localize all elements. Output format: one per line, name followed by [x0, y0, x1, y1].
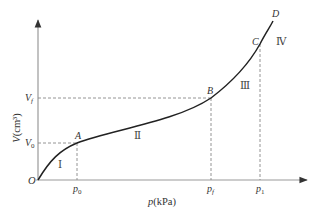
point-a-label: A: [74, 130, 82, 141]
x-axis-label: p(kPa): [147, 196, 176, 208]
region-4-label: Ⅳ: [276, 36, 287, 47]
pf-label: pf: [206, 183, 215, 196]
v0-label: V0: [25, 137, 35, 150]
pv-diagram: V(cm³) p(kPa) O V0 Vf p0 pf p1 A B C D Ⅰ…: [0, 0, 315, 212]
y-axis-label: V(cm³): [11, 113, 23, 143]
origin-label: O: [28, 175, 36, 186]
pv-curve: [38, 21, 273, 180]
guide-lines: [38, 44, 260, 180]
point-d-label: D: [271, 8, 280, 19]
p0-label: p0: [72, 183, 82, 196]
vf-label: Vf: [25, 92, 34, 105]
point-c-label: C: [252, 36, 259, 47]
region-3-label: Ⅲ: [240, 80, 250, 91]
region-2-label: Ⅱ: [134, 130, 141, 141]
point-b-label: B: [207, 85, 213, 96]
p1-label: p1: [255, 183, 265, 196]
region-1-label: Ⅰ: [58, 159, 62, 170]
